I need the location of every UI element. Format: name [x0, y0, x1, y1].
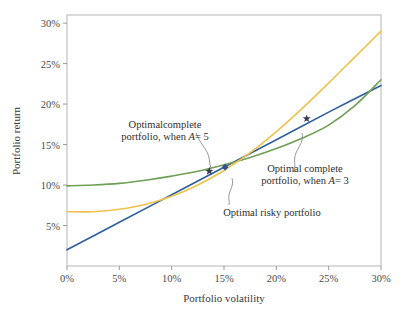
annotation-a5-suffix: = 5	[195, 131, 209, 142]
annotation-optimal-complete-a5: Optimalcomplete portfolio, when A= 5	[121, 119, 209, 144]
y-axis-title: Portfolio return	[10, 107, 22, 175]
annotation-a5-prefix: portfolio, when	[121, 131, 188, 142]
chart-figure: 5%10%15%20%25%30%0%5%10%15%20%25%30% Por…	[0, 0, 404, 315]
x-tick-label-6: 30%	[371, 273, 390, 284]
y-tick-label-5: 30%	[24, 18, 60, 29]
chart-plot-area	[0, 0, 404, 315]
annotation-optimal-complete-a3: Optimal complete portfolio, when A= 3	[261, 163, 349, 188]
x-tick-label-2: 10%	[162, 273, 181, 284]
y-tick-label-2: 15%	[24, 139, 60, 150]
annotation-risky-line1: Optimal risky portfolio	[223, 207, 320, 219]
annotation-a3-line2: portfolio, when A= 3	[261, 175, 349, 187]
annotation-optimal-risky-portfolio: Optimal risky portfolio	[223, 207, 320, 219]
x-axis-title: Portfolio volatility	[183, 292, 265, 304]
x-axis-ticks	[67, 266, 381, 270]
annotation-a5-line1: Optimalcomplete	[121, 119, 209, 131]
x-tick-label-5: 25%	[319, 273, 338, 284]
y-tick-label-0: 5%	[24, 220, 60, 231]
x-tick-label-0: 0%	[60, 273, 74, 284]
annotation-a3-suffix: = 3	[335, 175, 349, 186]
marker-optimal-complete-portfolio-a3	[303, 114, 311, 122]
y-tick-label-4: 25%	[24, 58, 60, 69]
leader-line-risky	[229, 178, 233, 205]
annotation-a3-prefix: portfolio, when	[261, 175, 328, 186]
x-tick-label-1: 5%	[112, 273, 126, 284]
y-axis-ticks	[63, 23, 67, 225]
y-tick-label-1: 10%	[24, 180, 60, 191]
plot-frame	[67, 15, 381, 266]
annotation-a5-line2: portfolio, when A= 5	[121, 131, 209, 143]
x-tick-label-3: 15%	[214, 273, 233, 284]
y-tick-label-3: 20%	[24, 99, 60, 110]
annotation-a3-line1: Optimal complete	[261, 163, 349, 175]
x-tick-label-4: 20%	[267, 273, 286, 284]
